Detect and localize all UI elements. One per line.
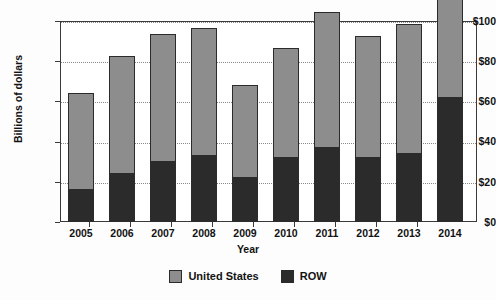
bar-stack[interactable]: [68, 93, 94, 222]
bar-group-2010[interactable]: [273, 21, 299, 222]
bar-segment-united-states[interactable]: [356, 37, 380, 157]
y-tick-label-40: $40: [448, 136, 496, 147]
bar-segment-united-states[interactable]: [274, 49, 298, 157]
bar-stack[interactable]: [232, 85, 258, 222]
bar-group-2008[interactable]: [191, 21, 217, 222]
bar-segment-united-states[interactable]: [69, 94, 93, 189]
bar-group-2009[interactable]: [232, 21, 258, 222]
bar-segment-row[interactable]: [192, 155, 216, 221]
bar-segment-row[interactable]: [438, 97, 462, 221]
bar-stack[interactable]: [396, 24, 422, 222]
bar-segment-united-states[interactable]: [397, 25, 421, 153]
bar-segment-united-states[interactable]: [233, 86, 257, 177]
bar-group-2006[interactable]: [109, 21, 135, 222]
legend-swatch-gray-icon: [169, 270, 182, 283]
y-tick-mark-40: [55, 142, 60, 143]
bar-segment-row[interactable]: [274, 157, 298, 221]
bar-segment-row[interactable]: [356, 157, 380, 221]
bar-stack[interactable]: [355, 36, 381, 222]
chart-legend: United States ROW: [0, 270, 496, 283]
y-axis-title: Billions of dollars: [12, 14, 24, 184]
bar-segment-united-states[interactable]: [151, 35, 175, 161]
bar-stack[interactable]: [273, 48, 299, 222]
bar-segment-row[interactable]: [233, 177, 257, 221]
bar-stack[interactable]: [314, 12, 340, 222]
bar-segment-united-states[interactable]: [192, 29, 216, 155]
bar-group-2014[interactable]: [437, 21, 463, 222]
legend-item-united-states[interactable]: United States: [169, 270, 258, 283]
x-tick-label-2014: 2014: [424, 228, 476, 239]
bar-segment-row[interactable]: [110, 173, 134, 221]
y-tick-label-100: $100: [448, 16, 496, 27]
y-tick-mark-60: [55, 101, 60, 102]
bar-stack[interactable]: [150, 34, 176, 222]
bar-segment-row[interactable]: [397, 153, 421, 221]
bar-stack[interactable]: [437, 0, 463, 222]
bar-group-2007[interactable]: [150, 21, 176, 222]
bar-group-2012[interactable]: [355, 21, 381, 222]
bar-group-2013[interactable]: [396, 21, 422, 222]
bar-segment-united-states[interactable]: [315, 13, 339, 147]
bar-stack[interactable]: [191, 28, 217, 222]
bar-segment-row[interactable]: [315, 147, 339, 221]
legend-label-united-states: United States: [188, 271, 258, 282]
bar-stack[interactable]: [109, 56, 135, 222]
legend-item-row[interactable]: ROW: [281, 270, 327, 283]
y-tick-mark-20: [55, 182, 60, 183]
bar-segment-united-states[interactable]: [438, 0, 462, 97]
y-tick-label-20: $20: [448, 177, 496, 188]
bar-segment-row[interactable]: [151, 161, 175, 221]
x-axis-title: Year: [0, 243, 496, 255]
stacked-bar-chart: $100 $80 $60 $40 $20 $0 2005 2006 2007 2…: [0, 0, 496, 300]
y-tick-mark-0: [55, 222, 60, 223]
y-tick-mark-100: [55, 21, 60, 22]
bar-group-2011[interactable]: [314, 21, 340, 222]
y-tick-label-60: $60: [448, 96, 496, 107]
bars-layer: [60, 21, 477, 222]
y-tick-label-0: $0: [448, 217, 496, 228]
legend-swatch-black-icon: [281, 270, 294, 283]
y-tick-label-80: $80: [448, 56, 496, 67]
bar-group-2005[interactable]: [68, 21, 94, 222]
y-tick-mark-80: [55, 61, 60, 62]
bar-segment-united-states[interactable]: [110, 57, 134, 173]
legend-label-row: ROW: [300, 271, 327, 282]
bar-segment-row[interactable]: [69, 189, 93, 221]
